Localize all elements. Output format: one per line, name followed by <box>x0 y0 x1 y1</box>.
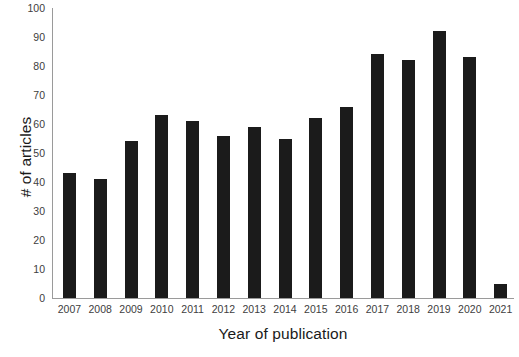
bar <box>494 284 507 299</box>
y-axis-tick-label: 0 <box>0 293 45 303</box>
y-axis-tick-labels: 0102030405060708090100 <box>0 0 45 300</box>
x-axis-title: Year of publication <box>52 325 514 343</box>
bar-chart: # of articles 0102030405060708090100 200… <box>0 0 519 357</box>
bar <box>371 54 384 298</box>
bar <box>340 107 353 298</box>
bar <box>94 179 107 298</box>
bar <box>186 121 199 298</box>
x-axis-tick-labels: 2007200820092010201120122013201420152016… <box>52 303 514 319</box>
bar <box>125 141 138 298</box>
bar <box>433 31 446 298</box>
y-axis-tick-label: 60 <box>0 119 45 129</box>
y-axis-tick-label: 100 <box>0 3 45 13</box>
y-axis-tick-label: 70 <box>0 90 45 100</box>
y-axis-tick-label: 50 <box>0 148 45 158</box>
y-axis-tick-label: 20 <box>0 235 45 245</box>
bar-series <box>52 8 514 299</box>
y-axis-tick-label: 10 <box>0 264 45 274</box>
y-axis-tick-label: 90 <box>0 32 45 42</box>
bar <box>248 127 261 298</box>
bar <box>463 57 476 298</box>
y-axis-tick-label: 80 <box>0 61 45 71</box>
y-axis-tick-label: 40 <box>0 177 45 187</box>
bar <box>309 118 322 298</box>
x-axis-tick-label: 2021 <box>481 303 519 315</box>
bar <box>155 115 168 298</box>
plot-area <box>52 8 514 299</box>
bar <box>279 139 292 299</box>
y-axis-tick-label: 30 <box>0 206 45 216</box>
bar <box>63 173 76 298</box>
bar <box>217 136 230 298</box>
bar <box>402 60 415 298</box>
